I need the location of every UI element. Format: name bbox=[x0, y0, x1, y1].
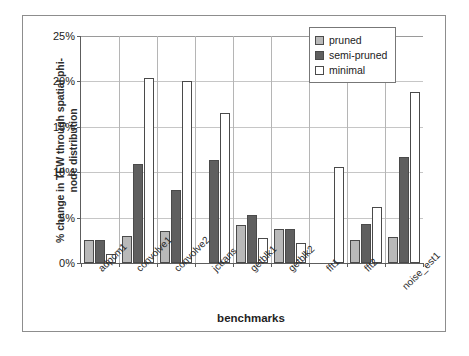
bar-pruned-getblk1 bbox=[236, 225, 247, 263]
bar-minimal-convolve1 bbox=[144, 78, 155, 263]
legend-swatch-icon bbox=[315, 51, 324, 60]
legend-item-pruned[interactable]: pruned bbox=[315, 33, 387, 47]
legend-item-label: minimal bbox=[329, 64, 365, 76]
y-axis-tick-label: 25% bbox=[53, 30, 75, 42]
group-separator bbox=[195, 36, 196, 263]
bar-minimal-fft2 bbox=[372, 207, 383, 263]
group-separator bbox=[233, 36, 234, 263]
bar-minimal-fft1 bbox=[334, 167, 345, 263]
bar-semi-pruned-noise_est1 bbox=[399, 157, 410, 263]
group-separator bbox=[119, 36, 120, 263]
bar-pruned-fft2 bbox=[350, 240, 361, 263]
legend-item-label: pruned bbox=[329, 34, 362, 46]
bar-pruned-getblk2 bbox=[274, 229, 285, 263]
y-axis-tick-label: 10% bbox=[53, 166, 75, 178]
legend-swatch-icon bbox=[315, 66, 324, 75]
figure-frame: % change in TEW through spatial phi- nod… bbox=[22, 15, 446, 332]
bar-semi-pruned-convolve1 bbox=[133, 164, 144, 263]
group-separator bbox=[271, 36, 272, 263]
y-axis-tick-label: 5% bbox=[59, 212, 75, 224]
bar-minimal-noise_est1 bbox=[410, 92, 421, 263]
bar-semi-pruned-convolve2 bbox=[171, 190, 182, 263]
bar-pruned-adpcm1 bbox=[84, 240, 95, 263]
y-axis-title-line2: node distribution bbox=[66, 36, 79, 266]
y-axis-tick-label: 0% bbox=[59, 257, 75, 269]
legend-item-semi-pruned[interactable]: semi-pruned bbox=[315, 48, 387, 62]
y-axis-tick-label: 20% bbox=[53, 75, 75, 87]
group-separator bbox=[157, 36, 158, 263]
legend-item-label: semi-pruned bbox=[329, 49, 387, 61]
y-axis-title-line1: % change in TEW through spatial phi- bbox=[54, 36, 67, 266]
bar-minimal-jctrans bbox=[220, 113, 231, 263]
bar-pruned-noise_est1 bbox=[388, 237, 399, 263]
legend-swatch-icon bbox=[315, 36, 324, 45]
x-axis-title: benchmarks bbox=[80, 312, 422, 324]
bar-semi-pruned-jctrans bbox=[209, 160, 220, 263]
y-axis-title: % change in TEW through spatial phi- nod… bbox=[54, 36, 79, 266]
y-axis-tick-label: 15% bbox=[53, 121, 75, 133]
bar-minimal-convolve2 bbox=[182, 81, 193, 263]
chart-legend: prunedsemi-prunedminimal bbox=[309, 27, 396, 83]
legend-item-minimal[interactable]: minimal bbox=[315, 63, 387, 77]
bar-semi-pruned-getblk1 bbox=[247, 215, 258, 263]
